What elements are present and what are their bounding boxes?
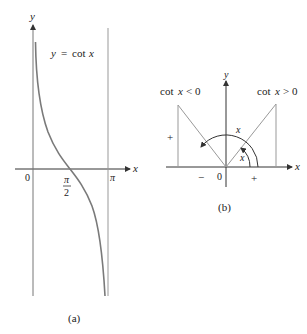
right-label-fn: cot bbox=[257, 85, 270, 97]
panel-b-sign-diagram: x x y x 0 cot x < 0 cot x > 0 + − + (b) bbox=[160, 69, 300, 214]
right-horizontal-sign: + bbox=[251, 172, 257, 184]
left-label-var: x bbox=[177, 85, 183, 97]
equation-equals: = bbox=[61, 47, 67, 59]
equation-lhs: y bbox=[50, 47, 56, 59]
left-vertical-sign: + bbox=[167, 131, 173, 143]
panel-a-y-label: y bbox=[29, 10, 35, 22]
small-angle-label: x bbox=[239, 152, 245, 163]
right-label-var: x bbox=[274, 85, 280, 97]
panel-b-x-label: x bbox=[294, 160, 300, 172]
tick-half-pi-numerator: π bbox=[64, 174, 70, 185]
left-horizontal-sign: − bbox=[198, 171, 204, 183]
panel-a-x-label: x bbox=[132, 162, 138, 174]
right-label-rel: > 0 bbox=[283, 85, 298, 97]
panel-b-origin-label: 0 bbox=[217, 171, 222, 182]
equation-fn: cot bbox=[72, 47, 85, 59]
panel-b-y-label: y bbox=[223, 69, 229, 80]
left-label-fn: cot bbox=[160, 85, 173, 97]
tick-half-pi-denominator: 2 bbox=[64, 187, 69, 198]
panel-a-caption: (a) bbox=[68, 312, 81, 325]
tick-origin: 0 bbox=[25, 172, 30, 183]
tick-pi: π bbox=[110, 172, 116, 183]
panel-a-cot-graph: y x y = cot x 0 π 2 π (a) bbox=[15, 10, 138, 325]
cotangent-figure: y x y = cot x 0 π 2 π (a) x x y x 0 bbox=[0, 0, 307, 334]
panel-b-caption: (b) bbox=[218, 201, 231, 214]
equation-var: x bbox=[88, 47, 94, 59]
big-angle-label: x bbox=[235, 124, 241, 135]
left-label-rel: < 0 bbox=[186, 85, 201, 97]
